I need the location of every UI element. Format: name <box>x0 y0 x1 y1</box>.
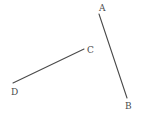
segment-cd <box>13 49 84 83</box>
geometry-figure-canvas: A B C D <box>0 0 150 125</box>
point-label-c: C <box>87 46 94 55</box>
point-label-d: D <box>11 88 18 97</box>
point-label-b: B <box>125 102 132 111</box>
point-label-a: A <box>99 4 106 13</box>
segment-ab <box>99 14 127 98</box>
